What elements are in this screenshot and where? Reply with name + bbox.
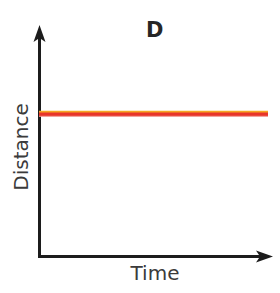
x-axis-label: Time [0, 263, 280, 283]
y-axis-label-text: Distance [11, 103, 31, 190]
chart-figure: D Distance Time [0, 0, 280, 293]
chart-plot-area [0, 0, 280, 293]
chart-title: D [0, 20, 280, 41]
chart-background [0, 0, 280, 293]
